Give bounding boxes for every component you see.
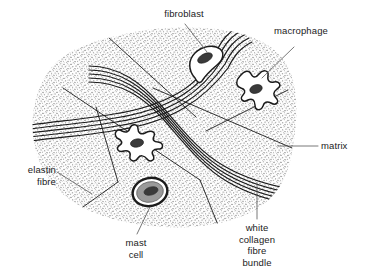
label-macrophage: macrophage xyxy=(266,25,336,37)
label-mast-cell: mast cell xyxy=(104,237,168,260)
diagram-canvas xyxy=(0,0,368,279)
label-fibroblast: fibroblast xyxy=(147,8,221,20)
label-white-collagen-fibre-bundle: white collagen fibre bundle xyxy=(224,222,290,268)
label-elastin-fibre: elastin fibre xyxy=(4,164,56,187)
connective-tissue-diagram: fibroblast macrophage matrix elastin fib… xyxy=(0,0,368,279)
label-matrix: matrix xyxy=(321,140,367,152)
